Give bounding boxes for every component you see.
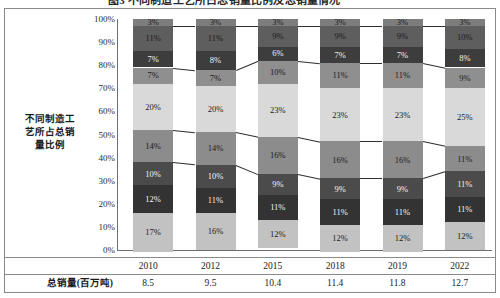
bar-segment[interactable]: 11%: [133, 26, 173, 51]
bar-segment[interactable]: 8%: [445, 49, 485, 67]
bar-segment[interactable]: 25%: [445, 88, 485, 146]
bar-segment[interactable]: 10%: [258, 61, 298, 84]
connector-line: [235, 165, 258, 175]
table-cell-year: 2019: [366, 258, 428, 275]
bar-segment[interactable]: 11%: [445, 197, 485, 222]
connector-line: [298, 174, 321, 180]
chart-frame: 不同制造工 艺所占总销 量比例 100%90%80%70%60%50%40%30…: [4, 8, 496, 293]
y-axis-tick: 50%: [77, 130, 115, 140]
connector-line: [298, 61, 320, 64]
bar-segment[interactable]: 16%: [196, 213, 236, 250]
connector-line: [422, 141, 445, 147]
data-table: 201020122015201820192022 总销量(百万吨) 8.59.5…: [5, 257, 495, 292]
bar-segment[interactable]: 11%: [445, 171, 485, 196]
bar-segment[interactable]: 16%: [258, 137, 298, 174]
table-row-totals: 总销量(百万吨) 8.59.510.411.411.812.7: [5, 274, 495, 292]
bar-segment[interactable]: 9%: [320, 26, 360, 47]
chart-title-strip: 图3 不同制造工艺所占总销量比例及总销量情况: [0, 0, 500, 7]
bar-segment[interactable]: 9%: [258, 26, 298, 47]
bar-segment[interactable]: 3%: [320, 19, 360, 26]
stacked-bar[interactable]: 3%9%7%11%23%16%9%11%12%: [383, 19, 423, 250]
connector-line: [360, 141, 382, 142]
connector-line: [236, 61, 259, 71]
bar-segment[interactable]: 23%: [258, 84, 298, 137]
stacked-bar[interactable]: 3%11%7%7%20%14%10%12%17%: [133, 19, 173, 250]
series-connector-lines: [118, 19, 492, 250]
connector-line: [422, 63, 445, 69]
bar-segment[interactable]: 14%: [133, 130, 173, 162]
table-cell-year: 2022: [429, 258, 491, 275]
table-row-years: 201020122015201820192022: [5, 257, 495, 275]
bar-segment[interactable]: 20%: [196, 86, 236, 132]
connector-line: [360, 26, 382, 27]
bar-segment[interactable]: 3%: [133, 19, 173, 26]
y-axis-tick: 100%: [77, 14, 115, 24]
bar-segment[interactable]: 23%: [320, 88, 360, 141]
bar-segment[interactable]: 9%: [445, 68, 485, 89]
table-cell-total: 8.5: [117, 275, 179, 292]
y-axis-tick: 20%: [77, 199, 115, 209]
bar-segment[interactable]: 7%: [133, 51, 173, 67]
bar-segment[interactable]: 12%: [383, 225, 423, 253]
bar-segment[interactable]: 10%: [133, 162, 173, 185]
connector-line: [360, 63, 382, 64]
bar-segment[interactable]: 9%: [383, 26, 423, 47]
bar-segment[interactable]: 10%: [196, 165, 236, 188]
bar-segment[interactable]: 17%: [133, 213, 173, 252]
bar-segment[interactable]: 16%: [383, 141, 423, 178]
connector-line: [173, 162, 195, 165]
bar-segment[interactable]: 8%: [196, 51, 236, 69]
connector-line: [298, 137, 321, 143]
bar-segment[interactable]: 7%: [383, 47, 423, 63]
stacked-bar[interactable]: 3%10%8%9%25%11%11%11%12%: [445, 19, 485, 250]
bar-segment[interactable]: 11%: [258, 195, 298, 220]
stacked-bar[interactable]: 3%9%6%10%23%16%9%11%12%: [258, 19, 298, 250]
bar-segment[interactable]: 14%: [196, 132, 236, 164]
bar-segment[interactable]: 9%: [258, 174, 298, 195]
bar-segment[interactable]: 3%: [196, 19, 236, 26]
bar-segment[interactable]: 3%: [445, 19, 485, 26]
bar-segment[interactable]: 7%: [133, 68, 173, 84]
bar-segment[interactable]: 9%: [320, 178, 360, 199]
bar-segment[interactable]: 3%: [258, 19, 298, 26]
table-cell-year: 2015: [242, 258, 304, 275]
connector-line: [236, 26, 258, 27]
bar-segment[interactable]: 9%: [383, 178, 423, 199]
bar-segment[interactable]: 23%: [383, 88, 423, 141]
bar-segment[interactable]: 10%: [445, 26, 485, 49]
chart-screenshot: 图3 不同制造工艺所占总销量比例及总销量情况 不同制造工 艺所占总销 量比例 1…: [0, 0, 500, 298]
bar-segment[interactable]: 11%: [196, 26, 236, 51]
bar-segment[interactable]: 11%: [383, 63, 423, 88]
bar-segment[interactable]: 20%: [133, 84, 173, 130]
bar-segment[interactable]: 3%: [383, 19, 423, 26]
y-axis-tick: 10%: [77, 222, 115, 232]
y-axis-tick: 60%: [77, 106, 115, 116]
table-cell-total: 10.4: [242, 275, 304, 292]
bar-segment[interactable]: 11%: [445, 146, 485, 171]
connector-line: [173, 130, 195, 133]
bar-segment[interactable]: 7%: [320, 47, 360, 63]
bar-segment[interactable]: 7%: [196, 70, 236, 86]
stacked-bar[interactable]: 3%11%8%7%20%14%10%11%16%: [196, 19, 236, 250]
bar-segment[interactable]: 12%: [133, 185, 173, 213]
stacked-bar[interactable]: 3%9%7%11%23%16%9%11%12%: [320, 19, 360, 250]
table-cell-total: 9.5: [179, 275, 241, 292]
y-axis-ticks: 100%90%80%70%60%50%40%30%20%10%0%: [73, 9, 115, 257]
y-axis-tick: 80%: [77, 60, 115, 70]
bar-segment[interactable]: 11%: [196, 188, 236, 213]
table-cell-total: 11.8: [366, 275, 428, 292]
bar-segment[interactable]: 12%: [445, 222, 485, 250]
bar-segment[interactable]: 12%: [320, 225, 360, 253]
table-cell-year: 2012: [179, 258, 241, 275]
connector-line: [360, 178, 382, 179]
bar-segment[interactable]: 11%: [320, 199, 360, 224]
connector-line: [423, 171, 446, 179]
y-axis-tick: 70%: [77, 83, 115, 93]
connector-line: [235, 132, 258, 138]
bar-segment[interactable]: 12%: [258, 220, 298, 248]
bar-segment[interactable]: 11%: [320, 63, 360, 88]
y-axis-tick: 30%: [77, 176, 115, 186]
bar-segment[interactable]: 11%: [383, 199, 423, 224]
bar-segment[interactable]: 16%: [320, 141, 360, 178]
bar-segment[interactable]: 6%: [258, 47, 298, 61]
